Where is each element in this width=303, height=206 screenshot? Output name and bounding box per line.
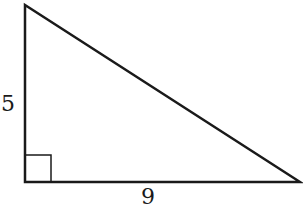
right-angle-marker: [25, 155, 51, 182]
vertical-leg-label: 5: [1, 91, 15, 116]
horizontal-leg-label: 9: [141, 184, 155, 206]
right-triangle-diagram: 5 9: [0, 0, 303, 206]
triangle: [25, 5, 300, 182]
